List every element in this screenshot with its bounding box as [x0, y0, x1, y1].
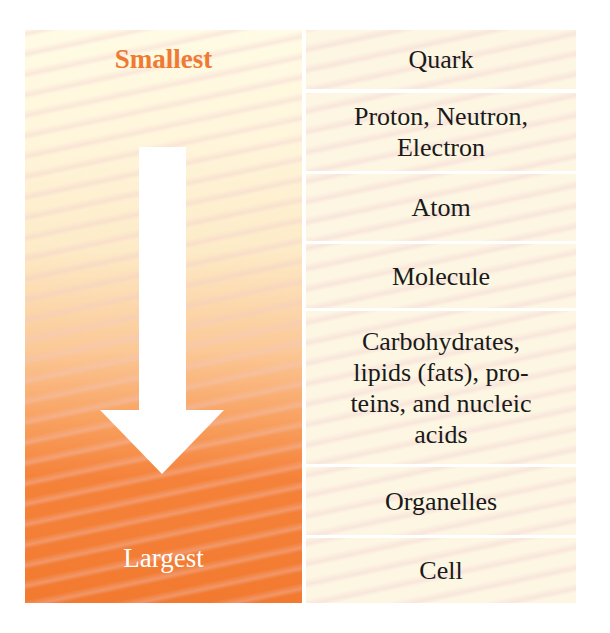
largest-label: Largest — [25, 543, 302, 574]
level-item-macromolecules: Carbohydrates, lipids (fats), pro-teins,… — [306, 311, 576, 464]
level-label: Molecule — [392, 261, 490, 292]
size-scale-panel: Smallest Largest — [25, 30, 302, 603]
level-item-quark: Quark — [306, 30, 576, 89]
level-item-atom: Atom — [306, 174, 576, 241]
level-label: Carbohydrates, lipids (fats), pro-teins,… — [334, 326, 549, 450]
level-label: Organelles — [385, 486, 497, 517]
level-label: Cell — [419, 555, 462, 586]
level-item-subatomic: Proton, Neutron, Electron — [306, 93, 576, 171]
level-label: Atom — [411, 192, 470, 223]
level-item-cell: Cell — [306, 538, 576, 603]
level-item-organelles: Organelles — [306, 467, 576, 535]
down-arrow-icon — [25, 30, 302, 603]
level-item-molecule: Molecule — [306, 244, 576, 308]
level-label: Quark — [409, 44, 474, 75]
levels-list: Quark Proton, Neutron, Electron Atom Mol… — [306, 30, 576, 603]
level-label: Proton, Neutron, Electron — [326, 101, 556, 163]
